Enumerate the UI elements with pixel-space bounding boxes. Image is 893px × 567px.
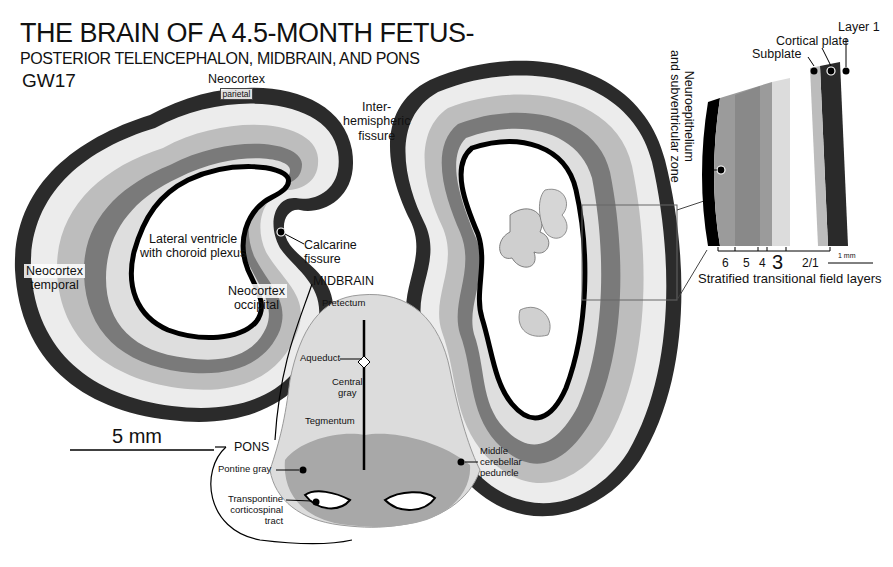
- label-transpontine-tract: Transpontine corticospinal tract: [228, 494, 283, 527]
- label-line: and subventricular zone: [667, 50, 681, 183]
- label-line: Calcarine: [304, 238, 357, 252]
- label-pons: PONS: [234, 440, 269, 454]
- inset-caption: Stratified transitional field layers: [698, 272, 882, 287]
- label-calcarine-fissure: Calcarine fissure: [304, 238, 357, 267]
- label-tegmentum: Tegmentum: [305, 416, 355, 427]
- label-name: Neocortex: [208, 72, 265, 86]
- label-layer-1: Layer 1: [838, 20, 880, 34]
- label-neocortex-parietal: Neocortex parietal: [208, 72, 265, 101]
- label-sub: temporal: [24, 278, 85, 292]
- label-pontine-gray: Pontine gray: [218, 464, 271, 475]
- label-neuroepithelium: Neuroepithelium and subventricular zone: [667, 50, 696, 183]
- label-subplate: Subplate: [752, 47, 801, 61]
- label-sub: occipital: [226, 298, 287, 312]
- layer-tick-2-1: 2/1: [802, 256, 819, 270]
- label-line: with choroid plexus: [140, 246, 246, 260]
- label-central-gray: Central gray: [332, 377, 363, 399]
- label-lateral-ventricle: Lateral ventricle with choroid plexus: [140, 232, 246, 261]
- label-line: fissure: [343, 129, 410, 143]
- inset-scale-label: 1 mm: [838, 252, 856, 260]
- scale-bar-label: 5 mm: [112, 425, 162, 448]
- cortical-layers-inset: [702, 38, 873, 263]
- label-name: Neocortex: [24, 264, 85, 278]
- label-interhemispheric-fissure: Inter- hemispheric fissure: [343, 100, 410, 143]
- label-sub: parietal: [220, 88, 254, 100]
- layer-tick-4: 4: [759, 256, 766, 270]
- label-pretectum: Pretectum: [322, 298, 365, 309]
- label-line: fissure: [304, 252, 357, 266]
- label-line: hemispheric: [343, 114, 410, 128]
- layer-tick-6: 6: [722, 256, 729, 270]
- label-aqueduct: Aqueduct: [300, 353, 340, 364]
- label-line: Inter-: [343, 100, 410, 114]
- label-line: gray: [332, 388, 363, 399]
- label-midbrain: MIDBRAIN: [313, 274, 374, 288]
- label-neocortex-temporal: Neocortex temporal: [24, 264, 85, 293]
- label-neocortex-occipital: Neocortex occipital: [226, 284, 287, 313]
- layer-tick-5: 5: [743, 256, 750, 270]
- label-line: tract: [228, 516, 283, 527]
- label-name: Neocortex: [226, 284, 287, 298]
- label-line: Neuroepithelium: [682, 50, 696, 183]
- label-middle-cerebellar-peduncle: Middle cerebellar peduncle: [480, 446, 522, 479]
- label-line: Lateral ventricle: [140, 232, 246, 246]
- label-line: peduncle: [480, 468, 522, 479]
